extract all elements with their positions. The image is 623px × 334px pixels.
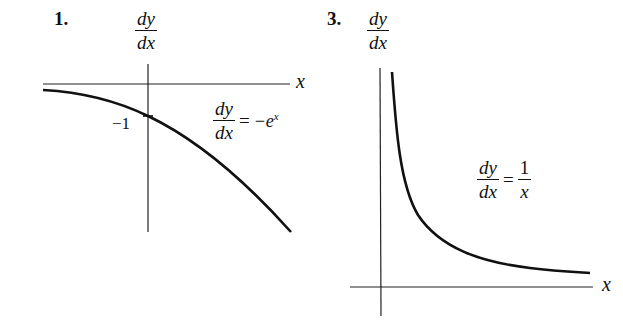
fig3-y-axis-label: dy dx xyxy=(367,9,389,52)
fig3-y-label-num: dy xyxy=(367,9,389,31)
fig1-y-axis-label: dy dx xyxy=(135,9,157,52)
fig3-y-label-den: dx xyxy=(369,31,387,52)
fig1-eq-lhs: dy dx xyxy=(213,99,235,142)
fig1-x-axis-label: x xyxy=(296,70,305,93)
fig3-number: 3. xyxy=(327,8,341,30)
fig3-equation: dy dx = 1 x xyxy=(477,158,531,201)
fig1-eq-rhs: −ex xyxy=(254,110,279,132)
fig1-eq-rhs-exp: x xyxy=(274,110,279,122)
fig3-eq-lhs-den: dx xyxy=(479,180,497,201)
fig3-eq-lhs: dy dx xyxy=(477,158,499,201)
fig1-number: 1. xyxy=(54,8,68,30)
fig1-y-label-den: dx xyxy=(137,31,155,52)
fig3-x-axis-label: x xyxy=(602,273,611,296)
fig3-eq-lhs-num: dy xyxy=(477,158,499,180)
fig3-eq-rhs: 1 x xyxy=(518,158,532,201)
fig3-eq-equals: = xyxy=(503,169,514,191)
fig3-eq-rhs-den: x xyxy=(520,180,528,201)
fig1-eq-lhs-den: dx xyxy=(215,121,233,142)
fig1-eq-equals: = xyxy=(239,110,250,132)
fig1-eq-rhs-base: −e xyxy=(254,111,274,131)
fig3-y-axis xyxy=(380,68,381,316)
fig1-y-label-num: dy xyxy=(135,9,157,31)
fig1-tick-label: −1 xyxy=(112,114,130,134)
fig1-equation: dy dx = −ex xyxy=(213,99,279,142)
fig3-eq-rhs-num: 1 xyxy=(518,158,532,180)
fig1-eq-lhs-num: dy xyxy=(213,99,235,121)
